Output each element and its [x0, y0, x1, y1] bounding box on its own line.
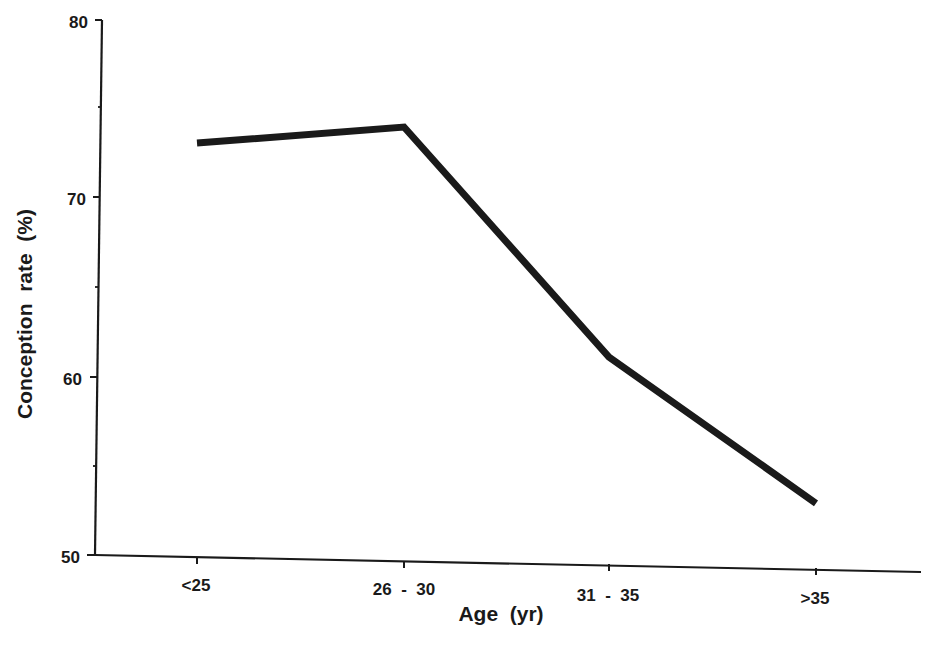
- y-tick-label-70: 70: [67, 190, 86, 209]
- x-tick-label-lt25: <25: [182, 576, 211, 595]
- y-tick-label-50: 50: [61, 548, 80, 567]
- x-tick-label-31-35: 31 - 35: [577, 586, 639, 605]
- y-major-ticks: [87, 20, 102, 555]
- x-axis-line: [95, 555, 921, 572]
- x-tick-label-gt35: >35: [801, 589, 830, 608]
- y-tick-label-60: 60: [63, 370, 82, 389]
- x-axis-title: Age (yr): [458, 602, 543, 625]
- y-tick-label-80: 80: [69, 13, 88, 32]
- x-tick-label-26-30: 26 - 30: [373, 580, 435, 599]
- conception-rate-line: [197, 127, 816, 503]
- y-axis-title: Conception rate (%): [13, 209, 36, 419]
- line-chart: 80 70 60 50 <25 26 - 30 31 - 35 >35 Age …: [0, 0, 934, 646]
